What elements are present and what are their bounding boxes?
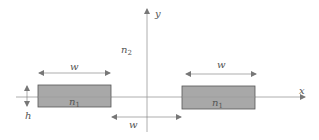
outer-index-label: n2	[121, 45, 132, 58]
right-core-index-label: n1	[212, 98, 223, 111]
left-width-label: w	[70, 62, 79, 72]
height-label: h	[25, 111, 31, 121]
gap-label: w	[129, 120, 138, 130]
left-core-index-label: n1	[69, 97, 80, 110]
diagram-canvas	[0, 0, 319, 140]
right-width-label: w	[217, 60, 226, 70]
y-axis-label: y	[155, 9, 161, 19]
x-axis-label: x	[299, 86, 305, 96]
